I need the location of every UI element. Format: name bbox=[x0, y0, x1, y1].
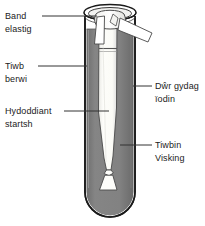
label-band-elastig-line1: Band bbox=[5, 11, 26, 21]
label-tiwb-berwi-line1: Tiwb bbox=[5, 61, 24, 71]
label-tiwb-berwi: Tiwb berwi bbox=[5, 61, 27, 84]
label-dwr-gydag-iodin-line1: Dŵr gydag bbox=[155, 81, 199, 91]
label-tiwbin-visking: Tiwbin Visking bbox=[155, 140, 185, 163]
label-band-elastig-line2: elastig bbox=[5, 24, 32, 34]
label-hydoddiant-startsh: Hydoddiant startsh bbox=[5, 106, 52, 129]
science-diagram-container: Band elastig Tiwb berwi Hydoddiant start… bbox=[0, 0, 205, 226]
label-hydoddiant-startsh-line1: Hydoddiant bbox=[5, 106, 52, 116]
label-dwr-gydag-iodin-line2: ïodin bbox=[155, 94, 175, 104]
visking-tubing-experiment-diagram: Band elastig Tiwb berwi Hydoddiant start… bbox=[0, 0, 205, 226]
label-dwr-gydag-iodin: Dŵr gydag ïodin bbox=[155, 81, 199, 104]
label-tiwbin-visking-line1: Tiwbin bbox=[155, 140, 181, 150]
label-tiwb-berwi-line2: berwi bbox=[5, 74, 27, 84]
label-band-elastig: Band elastig bbox=[5, 11, 32, 34]
label-hydoddiant-startsh-line2: startsh bbox=[5, 119, 33, 129]
label-tiwbin-visking-line2: Visking bbox=[155, 153, 185, 163]
